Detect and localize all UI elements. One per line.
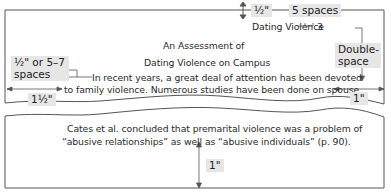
indent-label-line-2: spaces [14, 69, 66, 81]
bottom-body-text-line-2: “abusive relationships” as well as “abus… [62, 136, 351, 147]
double-space-label-line-1: Double- [338, 44, 378, 56]
top-margin-label: ½" [251, 4, 272, 17]
left-margin-arrow [7, 87, 62, 91]
running-head: Dating Violence [252, 21, 324, 32]
bottom-body-text-line-1: Cates et al. concluded that premarital v… [67, 123, 362, 134]
title-line-1: An Assessment of [163, 40, 244, 51]
header-spacing-label: 5 spaces [289, 4, 341, 17]
title-line-2: Dating Violence on Campus [144, 57, 270, 68]
indent-label-line-1: ½" or 5–7 [14, 57, 66, 69]
left-margin-label: 1½" [28, 93, 56, 106]
double-space-label-line-2: space [338, 56, 378, 68]
indent-label: ½" or 5–7 spaces [11, 56, 69, 81]
double-space-label: Double- space [335, 43, 381, 68]
page-outline-drawing [0, 0, 391, 193]
right-margin-label: 1" [350, 92, 368, 105]
page-number: 3 [317, 21, 323, 32]
body-text-line-1: In recent years, a great deal of attenti… [92, 72, 362, 83]
bottom-margin-label: 1" [206, 159, 224, 172]
indent-bracket [66, 70, 92, 80]
body-text-line-2: to family violence. Numerous studies hav… [64, 84, 359, 95]
bottom-margin-arrow [197, 142, 202, 188]
bottom-page-border [5, 107, 384, 188]
